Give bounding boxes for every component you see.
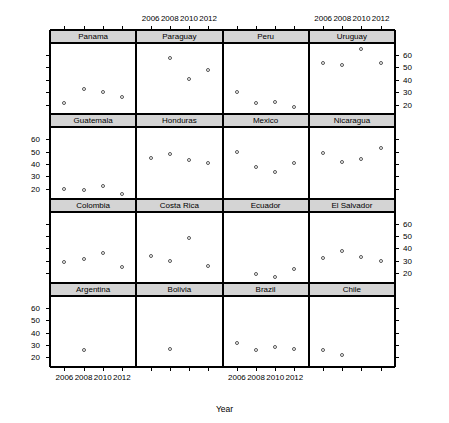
data-point bbox=[379, 146, 383, 150]
bottom-axis-spine bbox=[50, 367, 395, 368]
panel-plot-area bbox=[309, 212, 395, 283]
y-tick-label: 40 bbox=[403, 244, 412, 253]
panel-nicaragua: Nicaragua bbox=[309, 114, 395, 198]
panel-argentina: Argentina bbox=[50, 283, 136, 367]
data-point bbox=[168, 152, 172, 156]
data-point bbox=[187, 158, 191, 162]
panel-uruguay: Uruguay bbox=[309, 30, 395, 114]
x-tick-label: 2008 bbox=[247, 373, 265, 382]
data-point bbox=[254, 272, 258, 276]
data-point bbox=[254, 165, 258, 169]
data-point bbox=[235, 90, 239, 94]
panel-strip-label: El Salvador bbox=[309, 199, 395, 212]
data-point bbox=[379, 61, 383, 65]
panel-plot-area bbox=[223, 212, 309, 283]
panel-strip-label: Ecuador bbox=[223, 199, 309, 212]
y-tick-label: 30 bbox=[403, 256, 412, 265]
x-tick-label: 2006 bbox=[314, 14, 332, 23]
left-axis-spine bbox=[49, 30, 50, 367]
y-tick-label: 30 bbox=[31, 340, 40, 349]
y-tick-label: 50 bbox=[403, 63, 412, 72]
data-point bbox=[379, 259, 383, 263]
data-point bbox=[340, 63, 344, 67]
data-point bbox=[321, 61, 325, 65]
y-tick-label: 60 bbox=[403, 51, 412, 60]
panel-costa-rica: Costa Rica bbox=[136, 199, 222, 283]
panel-strip-label: Nicaragua bbox=[309, 114, 395, 127]
panel-grid: PanamaParaguay2006200820102012PeruUrugua… bbox=[50, 30, 395, 367]
panel-strip-label: Peru bbox=[223, 30, 309, 43]
x-tick-label: 2006 bbox=[55, 373, 73, 382]
y-tick-label: 40 bbox=[31, 328, 40, 337]
y-tick-label: 60 bbox=[31, 135, 40, 144]
x-tick-label: 2008 bbox=[161, 14, 179, 23]
data-point bbox=[292, 105, 296, 109]
panel-strip-label: Costa Rica bbox=[136, 199, 222, 212]
panel-plot-area bbox=[309, 127, 395, 198]
y-tick-label: 40 bbox=[31, 160, 40, 169]
data-point bbox=[187, 236, 191, 240]
panel-colombia: Colombia bbox=[50, 199, 136, 283]
y-tick-label: 20 bbox=[31, 353, 40, 362]
data-point bbox=[254, 348, 258, 352]
y-tick-label: 20 bbox=[31, 184, 40, 193]
panel-plot-area bbox=[309, 43, 395, 114]
x-tick-label: 2012 bbox=[199, 14, 217, 23]
data-point bbox=[321, 256, 325, 260]
data-point bbox=[101, 251, 105, 255]
panel-strip-label: Bolivia bbox=[136, 283, 222, 296]
panel-peru: Peru bbox=[223, 30, 309, 114]
panel-plot-area bbox=[136, 296, 222, 367]
panel-strip-label: Uruguay bbox=[309, 30, 395, 43]
x-tick-label: 2008 bbox=[333, 14, 351, 23]
data-point bbox=[120, 192, 124, 196]
panel-plot-area bbox=[136, 43, 222, 114]
data-point bbox=[340, 353, 344, 357]
y-tick-label: 40 bbox=[403, 75, 412, 84]
data-point bbox=[120, 95, 124, 99]
panel-strip-label: Paraguay bbox=[136, 30, 222, 43]
y-tick-label: 50 bbox=[403, 231, 412, 240]
x-tick-label: 2010 bbox=[180, 14, 198, 23]
y-tick-label: 30 bbox=[403, 88, 412, 97]
panel-strip-label: Panama bbox=[50, 30, 136, 43]
panel-strip-label: Guatemala bbox=[50, 114, 136, 127]
panel-brazil: Brazil bbox=[223, 283, 309, 367]
data-point bbox=[273, 170, 277, 174]
x-tick-label: 2012 bbox=[113, 373, 131, 382]
panel-strip-label: Argentina bbox=[50, 283, 136, 296]
x-tick-label: 2012 bbox=[372, 14, 390, 23]
y-tick-label: 50 bbox=[31, 147, 40, 156]
data-point bbox=[359, 47, 363, 51]
data-point bbox=[62, 260, 66, 264]
panel-plot-area bbox=[50, 296, 136, 367]
data-point bbox=[101, 184, 105, 188]
data-point bbox=[292, 161, 296, 165]
data-point bbox=[82, 87, 86, 91]
data-point bbox=[235, 150, 239, 154]
data-point bbox=[254, 101, 258, 105]
data-point bbox=[206, 264, 210, 268]
panel-guatemala: Guatemala bbox=[50, 114, 136, 198]
data-point bbox=[206, 161, 210, 165]
data-point bbox=[187, 77, 191, 81]
x-tick-label: 2006 bbox=[228, 373, 246, 382]
data-point bbox=[168, 347, 172, 351]
data-point bbox=[149, 254, 153, 258]
right-axis-spine bbox=[395, 30, 396, 367]
panel-strip-label: Brazil bbox=[223, 283, 309, 296]
panel-plot-area bbox=[223, 296, 309, 367]
y-tick-label: 50 bbox=[31, 316, 40, 325]
data-point bbox=[82, 257, 86, 261]
panel-plot-area bbox=[223, 43, 309, 114]
data-point bbox=[235, 341, 239, 345]
data-point bbox=[340, 160, 344, 164]
data-point bbox=[168, 259, 172, 263]
data-point bbox=[206, 68, 210, 72]
panel-paraguay: Paraguay bbox=[136, 30, 222, 114]
panel-strip-label: Mexico bbox=[223, 114, 309, 127]
panel-plot-area bbox=[50, 127, 136, 198]
data-point bbox=[168, 56, 172, 60]
panel-plot-area bbox=[50, 43, 136, 114]
y-tick-label: 20 bbox=[403, 100, 412, 109]
